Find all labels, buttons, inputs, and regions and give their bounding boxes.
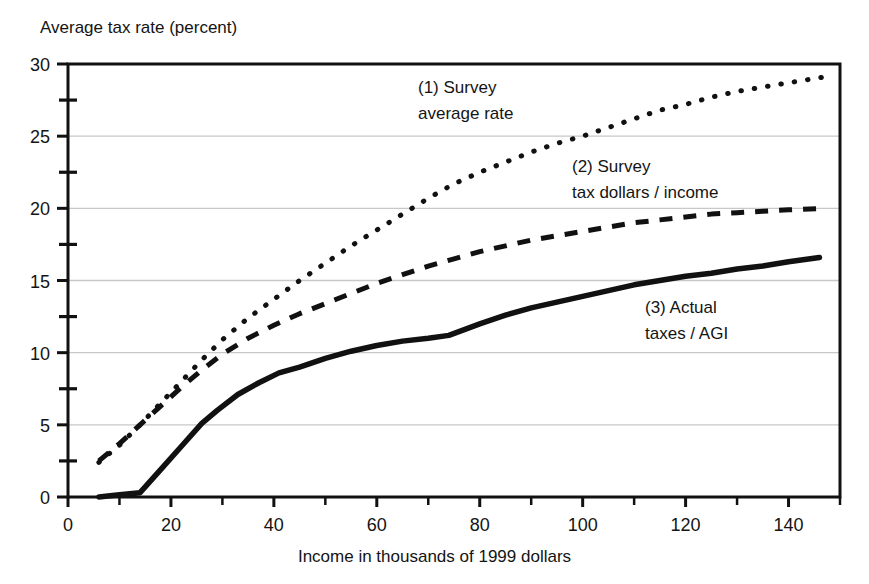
annotation-annot_2-line1: (2) Survey: [572, 157, 651, 176]
y-tick-label: 25: [30, 127, 50, 147]
y-tick-label: 15: [30, 272, 50, 292]
x-tick-label: 20: [161, 515, 181, 535]
annotation-annot_2-line2: tax dollars / income: [572, 183, 718, 202]
x-tick-label: 100: [568, 515, 598, 535]
annotation-annot_3-line2: taxes / AGI: [645, 324, 728, 343]
annotation-annot_1-line2: average rate: [418, 104, 513, 123]
series-annotations: (1) Surveyaverage rate(2) Surveytax doll…: [418, 78, 728, 343]
x-tick-label: 80: [470, 515, 490, 535]
x-tick-label: 0: [63, 515, 73, 535]
y-tick-label: 0: [40, 488, 50, 508]
x-tick-label: 120: [671, 515, 701, 535]
y-tick-label: 30: [30, 55, 50, 75]
x-tick-label: 140: [774, 515, 804, 535]
axis-ticks: [57, 64, 840, 507]
y-tick-label: 20: [30, 199, 50, 219]
annotation-annot_3-line1: (3) Actual: [645, 298, 717, 317]
annotation-annot_1-line1: (1) Survey: [418, 78, 497, 97]
gridlines-group: [68, 136, 840, 425]
y-tick-label: 5: [40, 416, 50, 436]
series-line-actual_taxes_over_agi: [99, 257, 820, 497]
x-tick-label: 40: [264, 515, 284, 535]
chart-plot-area: 051015202530 020406080100120140 (1) Surv…: [0, 0, 869, 584]
data-series-group: [99, 77, 825, 497]
chart-figure: Average tax rate (percent) 051015202530 …: [0, 0, 869, 584]
series-line-survey_average_rate: [99, 77, 825, 462]
x-tick-labels: 020406080100120140: [63, 515, 804, 535]
y-tick-label: 10: [30, 344, 50, 364]
y-tick-labels: 051015202530: [30, 55, 50, 508]
x-axis-title: Income in thousands of 1999 dollars: [0, 547, 869, 567]
x-tick-label: 60: [367, 515, 387, 535]
